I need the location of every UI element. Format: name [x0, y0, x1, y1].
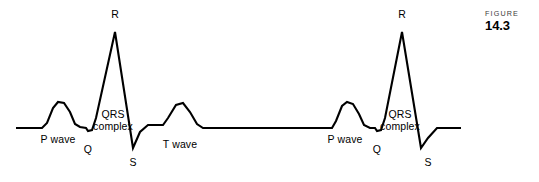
label-t-wave-beat1: T wave — [163, 138, 197, 150]
label-q-beat2: Q — [373, 143, 381, 155]
label-s-beat2: S — [424, 156, 431, 168]
label-qrs-line2: complex — [380, 120, 420, 132]
ecg-figure: P wave Q R S QRS complex T wave P wave Q… — [0, 0, 539, 182]
figure-caption-number: 14.3 — [485, 18, 533, 34]
label-qrs-line2: complex — [93, 120, 133, 132]
label-r-beat2: R — [398, 8, 406, 20]
label-qrs-line1: QRS — [388, 108, 411, 120]
label-s-beat1: S — [129, 156, 136, 168]
label-q-beat1: Q — [84, 143, 92, 155]
label-qrs-line1: QRS — [101, 108, 124, 120]
ecg-trace-svg — [0, 0, 539, 182]
label-p-wave-beat2: P wave — [328, 133, 363, 145]
figure-caption: FIGURE 14.3 — [485, 10, 533, 34]
figure-caption-word: FIGURE — [485, 10, 533, 18]
label-qrs-complex-beat1: QRS complex — [93, 108, 133, 133]
label-qrs-complex-beat2: QRS complex — [380, 108, 420, 133]
label-p-wave-beat1: P wave — [41, 133, 76, 145]
label-r-beat1: R — [111, 8, 119, 20]
